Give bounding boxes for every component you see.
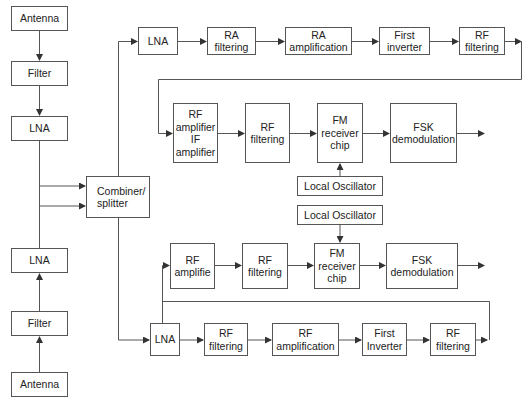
lna-branch2-box: LNA (150, 323, 180, 356)
local-oscillator-branch2-box: Local Oscillator (297, 205, 383, 225)
combiner-splitter-box: Combiner/ splitter (86, 176, 150, 218)
lna-lower-box: LNA (11, 248, 68, 273)
local-oscillator-branch1-box: Local Oscillator (297, 176, 383, 196)
fm-receiver-chip-branch1-box: FM receiver chip (317, 103, 363, 163)
first-inverter-branch3-box: First Inverter (362, 323, 407, 356)
ra-amplification-box: RA amplification (285, 27, 352, 55)
lna-branch1-box: LNA (138, 27, 178, 55)
rf-amplification-branch3-box: RF amplification (272, 323, 339, 356)
fsk-demodulation-branch1-box: FSK demodulation (390, 103, 457, 163)
filter-top-box: Filter (11, 61, 68, 86)
rf-if-amplifier-box: RF amplifier IF amplifier (173, 103, 218, 163)
antenna-lower-box: Antenna (11, 372, 68, 397)
fm-receiver-chip-branch2-box: FM receiver chip (314, 243, 360, 289)
lna-top-box: LNA (11, 116, 68, 141)
rf-filtering-branch3-box: RF filtering (204, 323, 248, 356)
rf-filtering-branch1b-box: RF filtering (245, 103, 290, 163)
rf-amplifie-branch2-box: RF amplifie (170, 243, 215, 289)
rf-filtering-branch1-box: RF filtering (459, 27, 505, 55)
fsk-demodulation-branch2-box: FSK demodulation (386, 243, 458, 289)
ra-filtering-box: RA filtering (207, 27, 256, 55)
filter-lower-box: Filter (11, 311, 68, 336)
rf-filtering-branch2-box: RF filtering (242, 243, 288, 289)
first-inverter-branch1-box: First inverter (379, 27, 430, 55)
rf-filtering-branch3b-box: RF filtering (430, 323, 476, 356)
antenna-top-box: Antenna (11, 6, 68, 31)
